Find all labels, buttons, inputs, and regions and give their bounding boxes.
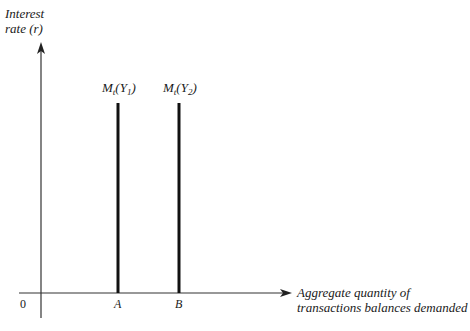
curve-label-y2: Mt(Y2) (163, 80, 197, 100)
y-axis-label: Interest rate (r) (5, 6, 44, 36)
x-axis-label: Aggregate quantity of transactions balan… (297, 285, 467, 315)
x-axis-label-line2: transactions balances demanded (297, 300, 467, 315)
y-axis-label-line2: rate (r) (5, 21, 44, 36)
y-axis-label-line1: Interest (5, 6, 44, 21)
x-axis-label-line1: Aggregate quantity of (297, 285, 467, 300)
tick-label-a: A (114, 297, 121, 312)
curve-label-y1: Mt(Y1) (102, 80, 136, 100)
diagram-canvas (0, 0, 470, 331)
origin-label: 0 (20, 297, 26, 312)
tick-label-b: B (175, 297, 182, 312)
